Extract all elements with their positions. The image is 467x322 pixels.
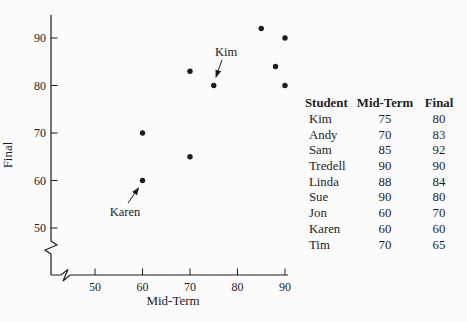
table-header-midterm: Mid-Term bbox=[355, 96, 415, 112]
student-name-cell: Andy bbox=[303, 128, 355, 144]
y-axis-label: Final bbox=[0, 141, 15, 168]
final-score-cell: 60 bbox=[415, 222, 463, 238]
annotation-arrow-kim bbox=[216, 60, 222, 77]
x-axis-label: Mid-Term bbox=[146, 293, 199, 308]
final-score-cell: 90 bbox=[415, 159, 463, 175]
y-tick-label: 50 bbox=[34, 221, 46, 235]
midterm-score-cell: 70 bbox=[355, 238, 415, 254]
midterm-score-cell: 70 bbox=[355, 128, 415, 144]
student-name-cell: Sue bbox=[303, 190, 355, 206]
data-point-linda bbox=[273, 64, 278, 69]
table-header-student: Student bbox=[303, 96, 355, 112]
table-header-row: Student Mid-Term Final bbox=[303, 95, 463, 112]
y-tick-label: 80 bbox=[34, 79, 46, 93]
student-name-cell: Tredell bbox=[303, 159, 355, 175]
midterm-score-cell: 88 bbox=[355, 175, 415, 191]
table-row: Kim7580 bbox=[303, 112, 463, 128]
table-row: Karen6060 bbox=[303, 222, 463, 238]
final-score-cell: 84 bbox=[415, 175, 463, 191]
x-tick-label: 80 bbox=[232, 280, 244, 294]
y-axis bbox=[45, 15, 57, 275]
final-score-cell: 65 bbox=[415, 238, 463, 254]
x-tick-label: 90 bbox=[279, 280, 291, 294]
data-point-tim bbox=[187, 154, 192, 159]
y-tick-label: 90 bbox=[34, 31, 46, 45]
annotation-label-kim: Kim bbox=[215, 45, 238, 59]
final-score-cell: 83 bbox=[415, 128, 463, 144]
table-row: Sue9080 bbox=[303, 190, 463, 206]
final-score-cell: 92 bbox=[415, 143, 463, 159]
midterm-score-cell: 85 bbox=[355, 143, 415, 159]
student-name-cell: Sam bbox=[303, 143, 355, 159]
annotation-label-karen: Karen bbox=[110, 205, 141, 219]
table-row: Tredell9090 bbox=[303, 159, 463, 175]
x-axis bbox=[51, 270, 288, 282]
figure-scatterplot-with-table: 50607080905060708090Mid-TermFinalKimKare… bbox=[0, 0, 467, 322]
x-tick-label: 60 bbox=[137, 280, 149, 294]
annotation-arrow-karen bbox=[128, 188, 139, 203]
table-row: Sam8592 bbox=[303, 143, 463, 159]
table-row: Tim7065 bbox=[303, 238, 463, 254]
table-body: Kim7580Andy7083Sam8592Tredell9090Linda88… bbox=[303, 112, 463, 253]
midterm-score-cell: 90 bbox=[355, 190, 415, 206]
x-tick-label: 50 bbox=[89, 280, 101, 294]
student-scores-table: Student Mid-Term Final Kim7580Andy7083Sa… bbox=[303, 95, 463, 253]
data-point-sam bbox=[259, 26, 264, 31]
final-score-cell: 80 bbox=[415, 190, 463, 206]
y-tick-label: 60 bbox=[34, 174, 46, 188]
final-score-cell: 80 bbox=[415, 112, 463, 128]
data-point-sue bbox=[282, 83, 287, 88]
student-name-cell: Jon bbox=[303, 206, 355, 222]
x-tick-label: 70 bbox=[184, 280, 196, 294]
midterm-score-cell: 90 bbox=[355, 159, 415, 175]
table-row: Linda8884 bbox=[303, 175, 463, 191]
scatter-plot: 50607080905060708090Mid-TermFinalKimKare… bbox=[0, 0, 300, 322]
student-name-cell: Tim bbox=[303, 238, 355, 254]
table-row: Andy7083 bbox=[303, 128, 463, 144]
y-tick-label: 70 bbox=[34, 126, 46, 140]
student-name-cell: Linda bbox=[303, 175, 355, 191]
table-header-final: Final bbox=[415, 96, 463, 112]
student-name-cell: Kim bbox=[303, 112, 355, 128]
data-point-karen bbox=[140, 178, 145, 183]
midterm-score-cell: 75 bbox=[355, 112, 415, 128]
data-point-kim bbox=[211, 83, 216, 88]
final-score-cell: 70 bbox=[415, 206, 463, 222]
data-point-andy bbox=[187, 69, 192, 74]
student-name-cell: Karen bbox=[303, 222, 355, 238]
data-point-jon bbox=[140, 130, 145, 135]
table-row: Jon6070 bbox=[303, 206, 463, 222]
midterm-score-cell: 60 bbox=[355, 222, 415, 238]
data-point-tredell bbox=[282, 35, 287, 40]
midterm-score-cell: 60 bbox=[355, 206, 415, 222]
